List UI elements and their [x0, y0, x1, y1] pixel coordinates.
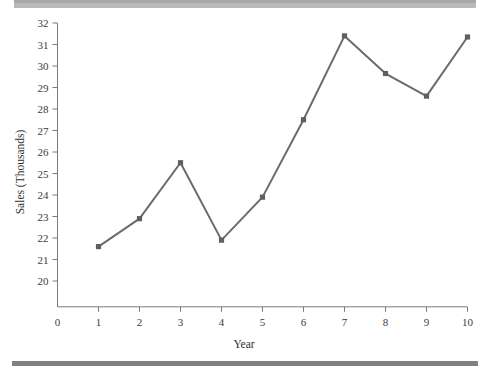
y-tick-label: 22 [38, 232, 49, 244]
y-tick-label: 32 [38, 17, 49, 29]
data-point-marker [465, 34, 470, 39]
data-point-marker [260, 195, 265, 200]
x-tick-label: 6 [301, 316, 307, 328]
y-tick-label: 21 [38, 254, 49, 266]
y-axis-label: Sales (Thousands) [14, 130, 27, 215]
data-point-marker [96, 244, 101, 249]
data-point-marker [342, 33, 347, 38]
y-tick-label: 29 [38, 82, 50, 94]
y-tick-label: 25 [38, 168, 50, 180]
y-tick-label: 28 [38, 103, 50, 115]
data-point-markers [96, 33, 470, 249]
data-point-marker [301, 117, 306, 122]
data-series-sales [99, 36, 468, 247]
x-axis-label: Year [233, 338, 254, 350]
x-axis-ticks: 012345678910 [55, 307, 474, 328]
data-point-marker [178, 160, 183, 165]
x-tick-label: 10 [462, 316, 474, 328]
data-point-marker [424, 94, 429, 99]
y-tick-label: 23 [38, 211, 50, 223]
data-point-marker [137, 216, 142, 221]
x-tick-label: 5 [260, 316, 266, 328]
y-tick-label: 31 [38, 39, 49, 51]
y-tick-label: 24 [38, 189, 50, 201]
x-tick-label: 9 [424, 316, 430, 328]
x-tick-label: 8 [383, 316, 389, 328]
data-point-marker [383, 71, 388, 76]
y-axis-ticks: 32313029282726252423222120 [38, 17, 58, 287]
y-tick-label: 30 [38, 60, 50, 72]
x-tick-label: 7 [342, 316, 348, 328]
x-tick-label: 2 [137, 316, 143, 328]
x-tick-label: 0 [55, 316, 61, 328]
chart-axes [58, 23, 468, 307]
y-tick-label: 27 [38, 125, 50, 137]
x-tick-label: 4 [219, 316, 225, 328]
y-tick-label: 26 [38, 146, 50, 158]
data-point-marker [219, 238, 224, 243]
line-chart-plot: 32313029282726252423222120 012345678910 … [0, 0, 489, 372]
x-tick-label: 3 [178, 316, 184, 328]
x-tick-label: 1 [96, 316, 102, 328]
bottom-decoration-band [12, 361, 478, 366]
chart-figure: 32313029282726252423222120 012345678910 … [0, 0, 489, 372]
series-line-sales [99, 36, 468, 247]
y-tick-label: 20 [38, 275, 50, 287]
